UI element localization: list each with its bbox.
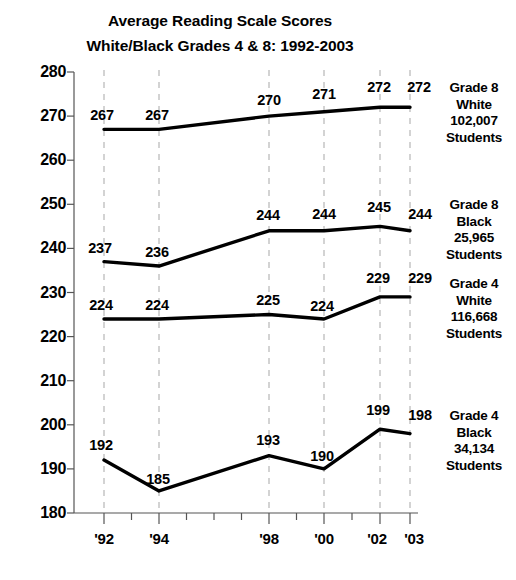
plot-area: 280270260250240230220210200190180'92'94'… — [0, 0, 516, 580]
legend-line-3: 116,668 — [432, 309, 516, 326]
data-label-grade-4-white-02: 229 — [366, 270, 389, 286]
data-label-grade-4-black-94: 185 — [146, 471, 169, 487]
legend-line-3: 25,965 — [432, 230, 516, 247]
data-label-grade-4-white-00: 224 — [310, 298, 333, 314]
legend-line-1: Grade 4 — [432, 408, 516, 425]
y-axis-label-270: 270 — [22, 107, 66, 125]
data-label-grade-8-black-02: 245 — [367, 199, 390, 215]
data-label-grade-8-white-94: 267 — [145, 107, 168, 123]
y-axis-label-210: 210 — [22, 372, 66, 390]
legend-line-3: 102,007 — [432, 113, 516, 130]
data-label-grade-4-black-03: 198 — [408, 407, 431, 423]
legend-line-2: White — [432, 293, 516, 310]
x-axis-label-92: '92 — [94, 530, 113, 547]
chart-page: Average Reading Scale Scores White/Black… — [0, 0, 516, 580]
y-axis-label-230: 230 — [22, 284, 66, 302]
y-axis-label-190: 190 — [22, 460, 66, 478]
data-label-grade-4-white-94: 224 — [145, 297, 168, 313]
legend-line-4: Students — [432, 130, 516, 147]
x-axis-label-00: '00 — [314, 530, 333, 547]
legend-line-4: Students — [432, 247, 516, 264]
data-label-grade-8-white-03: 272 — [407, 79, 430, 95]
data-label-grade-8-black-94: 236 — [145, 244, 168, 260]
data-label-grade-8-black-92: 237 — [88, 240, 111, 256]
legend-line-3: 34,134 — [432, 441, 516, 458]
data-label-grade-8-black-03: 244 — [408, 206, 431, 222]
x-axis-label-03: '03 — [404, 530, 423, 547]
data-label-grade-4-black-92: 192 — [89, 437, 112, 453]
data-label-grade-8-white-00: 271 — [312, 86, 335, 102]
legend-line-1: Grade 8 — [432, 197, 516, 214]
legend-line-2: Black — [432, 425, 516, 442]
data-label-grade-8-white-98: 270 — [257, 92, 280, 108]
legend-line-4: Students — [432, 326, 516, 343]
data-label-grade-4-black-98: 193 — [256, 432, 279, 448]
y-axis-label-260: 260 — [22, 151, 66, 169]
data-label-grade-8-black-00: 244 — [312, 206, 335, 222]
data-label-grade-4-white-92: 224 — [89, 297, 112, 313]
legend-entry-grade-4-black: Grade 4Black34,134Students — [432, 408, 516, 474]
legend-line-1: Grade 8 — [432, 80, 516, 97]
legend-line-1: Grade 4 — [432, 276, 516, 293]
x-axis-label-02: '02 — [367, 530, 386, 547]
y-axis-label-200: 200 — [22, 416, 66, 434]
data-label-grade-8-white-92: 267 — [90, 107, 113, 123]
data-label-grade-8-black-98: 244 — [256, 207, 279, 223]
legend-entry-grade-4-white: Grade 4White116,668Students — [432, 276, 516, 342]
data-label-grade-8-white-02: 272 — [367, 79, 390, 95]
legend-line-2: Black — [432, 214, 516, 231]
y-axis-label-250: 250 — [22, 195, 66, 213]
data-label-grade-4-white-03: 229 — [408, 270, 431, 286]
legend-line-2: White — [432, 97, 516, 114]
x-axis-label-98: '98 — [259, 530, 278, 547]
legend-line-4: Students — [432, 458, 516, 475]
y-axis-label-280: 280 — [22, 63, 66, 81]
legend-entry-grade-8-white: Grade 8White102,007Students — [432, 80, 516, 146]
y-axis-label-240: 240 — [22, 239, 66, 257]
legend-entry-grade-8-black: Grade 8Black25,965Students — [432, 197, 516, 263]
data-label-grade-4-black-00: 190 — [310, 448, 333, 464]
y-axis-label-180: 180 — [22, 504, 66, 522]
x-axis-label-94: '94 — [149, 530, 168, 547]
y-axis-label-220: 220 — [22, 328, 66, 346]
data-label-grade-4-white-98: 225 — [256, 292, 279, 308]
data-label-grade-4-black-02: 199 — [366, 402, 389, 418]
